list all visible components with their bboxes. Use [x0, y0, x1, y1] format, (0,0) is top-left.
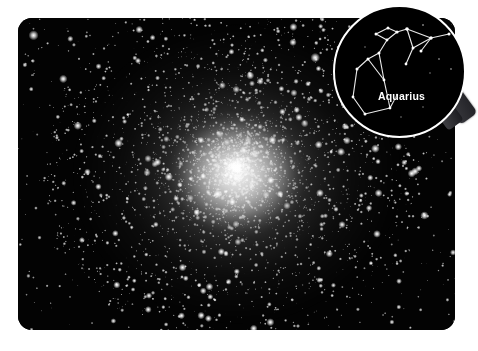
cluster-star-layer — [18, 18, 455, 330]
globular-cluster-photograph — [18, 18, 455, 330]
